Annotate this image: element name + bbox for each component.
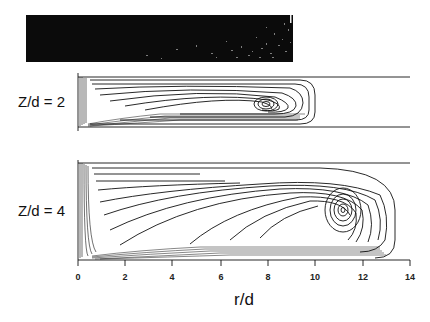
x-tick-8: 8 xyxy=(265,272,270,282)
panel-z2 xyxy=(78,73,410,131)
panel-z4 xyxy=(78,160,410,266)
x-tick-14: 14 xyxy=(405,272,415,282)
x-tick-0: 0 xyxy=(75,272,80,282)
x-tick-6: 6 xyxy=(218,272,223,282)
x-tick-4: 4 xyxy=(169,272,174,282)
x-tick-2: 2 xyxy=(122,272,127,282)
x-tick-12: 12 xyxy=(358,272,368,282)
x-axis-ticks xyxy=(78,260,410,266)
x-axis-label: r/d xyxy=(234,290,254,310)
x-tick-10: 10 xyxy=(310,272,320,282)
